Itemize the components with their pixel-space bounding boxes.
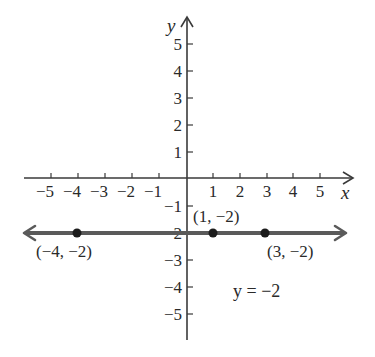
y-tick-labels: 5 4 3 2 1 −1 −2 −3 −4 −5 [164,35,183,324]
y-tick-label: 2 [174,116,183,135]
y-axis-label: y [165,15,176,36]
point-label: (−4, −2) [36,242,92,261]
coordinate-plane: −5 −4 −3 −2 −1 1 2 3 4 5 x [0,0,375,357]
y-tick-label: −1 [164,197,182,216]
x-tick-label: 2 [236,182,245,201]
x-axis-label: x [340,182,350,203]
y-ticks [187,44,193,314]
equation-label: y = −2 [233,281,280,301]
point-neg4-neg2 [73,229,82,238]
point-1-neg2 [209,229,218,238]
x-axis: −5 −4 −3 −2 −1 1 2 3 4 5 x [24,172,353,203]
y-tick-label: −4 [164,278,183,297]
x-tick-label: −4 [63,182,82,201]
x-tick-label: −2 [117,182,135,201]
y-tick-label: 1 [174,143,183,162]
y-tick-label: −5 [164,305,182,324]
line-y-equals-neg2 [24,226,346,240]
point-label: (3, −2) [267,242,313,261]
x-tick-label: 4 [289,182,298,201]
y-tick-label: 4 [174,62,183,81]
y-tick-label: −3 [164,251,182,270]
x-tick-label: 5 [316,182,325,201]
x-tick-label: −5 [36,182,54,201]
x-tick-label: 1 [209,182,218,201]
y-tick-label: 5 [174,35,183,54]
x-tick-label: −1 [144,182,162,201]
x-tick-label: 3 [263,182,272,201]
point-label: (1, −2) [193,207,239,226]
y-tick-label: 3 [174,89,183,108]
point-3-neg2 [261,229,270,238]
x-tick-label: −3 [90,182,108,201]
